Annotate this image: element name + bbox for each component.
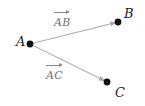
- vector-label-ac: AC: [46, 63, 63, 81]
- ray-ab: [30, 23, 116, 44]
- point-b-dot: [115, 19, 122, 26]
- point-c-dot: [104, 79, 111, 86]
- vector-ac-text: AC: [46, 68, 63, 81]
- vector-label-ab: AB: [54, 10, 70, 28]
- vector-ab-overarrow-icon: [54, 10, 70, 15]
- vector-ac-overarrow-icon: [46, 63, 63, 68]
- point-label-b: B: [124, 7, 134, 20]
- vector-diagram: A B C AB AC: [0, 0, 145, 106]
- vector-ab-text: AB: [54, 15, 70, 28]
- point-a-dot: [27, 41, 34, 48]
- point-label-a: A: [16, 35, 25, 48]
- point-label-c: C: [115, 86, 125, 99]
- ray-ac: [30, 44, 104, 81]
